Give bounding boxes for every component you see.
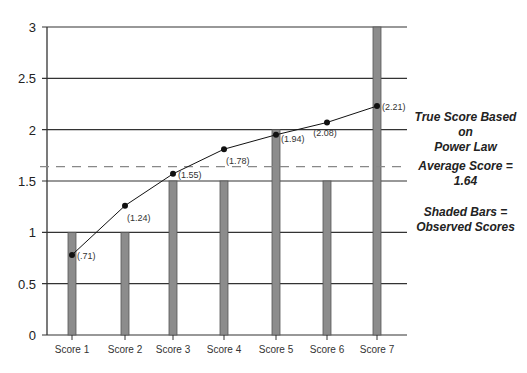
y-tick-label: 2.5 bbox=[18, 71, 36, 86]
data-point-label: (1.94) bbox=[281, 134, 305, 144]
x-tick-label: Score 6 bbox=[310, 344, 345, 355]
legend-true-score-line1: True Score Based on bbox=[408, 110, 523, 140]
y-tick-label: 1 bbox=[29, 225, 36, 240]
legend-average-score: Average Score = 1.64 bbox=[408, 159, 523, 189]
data-point bbox=[122, 203, 128, 209]
y-tick-label: 0 bbox=[29, 328, 36, 343]
data-point-label: (1.55) bbox=[178, 170, 202, 180]
bar bbox=[169, 181, 177, 335]
legend-true-score-line2: Power Law bbox=[408, 140, 523, 155]
x-axis-labels: Score 1Score 2Score 3Score 4Score 5Score… bbox=[55, 335, 395, 355]
bar bbox=[323, 181, 331, 335]
data-point-label: (1.24) bbox=[127, 213, 151, 223]
data-point bbox=[170, 171, 176, 177]
legend-true-score: True Score Based on Power Law bbox=[408, 110, 523, 155]
legend-shaded-bars-line2: Observed Scores bbox=[408, 220, 523, 235]
x-tick-label: Score 3 bbox=[156, 344, 191, 355]
data-point bbox=[273, 132, 279, 138]
y-axis-ticks: 00.511.522.53 bbox=[18, 20, 36, 343]
legend-shaded-bars-line1: Shaded Bars = bbox=[408, 205, 523, 220]
y-tick-label: 2 bbox=[29, 123, 36, 138]
x-tick-label: Score 1 bbox=[55, 344, 90, 355]
bar bbox=[220, 181, 228, 335]
data-point bbox=[69, 252, 75, 258]
y-tick-label: 0.5 bbox=[18, 277, 36, 292]
x-tick-label: Score 7 bbox=[360, 344, 395, 355]
data-point-label: (2.08) bbox=[313, 128, 337, 138]
data-point-label: (.71) bbox=[77, 251, 96, 261]
data-point bbox=[221, 146, 227, 152]
data-point bbox=[324, 119, 330, 125]
y-tick-label: 3 bbox=[29, 20, 36, 35]
bar bbox=[272, 130, 280, 335]
x-tick-label: Score 4 bbox=[207, 344, 242, 355]
x-tick-label: Score 5 bbox=[259, 344, 294, 355]
data-point-label: (1.78) bbox=[226, 156, 250, 166]
y-tick-label: 1.5 bbox=[18, 174, 36, 189]
bar bbox=[68, 232, 76, 335]
legend-shaded-bars: Shaded Bars = Observed Scores bbox=[408, 205, 523, 235]
x-tick-label: Score 2 bbox=[108, 344, 143, 355]
data-point-label: (2.21) bbox=[382, 102, 406, 112]
bar bbox=[121, 232, 129, 335]
legend-average-label: Average Score = 1.64 bbox=[408, 159, 523, 189]
data-point bbox=[374, 103, 380, 109]
bar bbox=[373, 27, 381, 335]
